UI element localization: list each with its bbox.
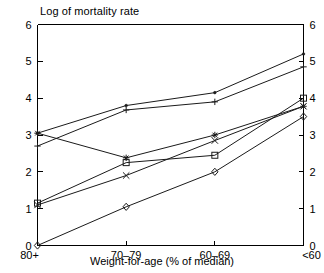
marker-plus bbox=[300, 64, 306, 70]
chart-canvas: 00112233445566 80+70–7960–69<60 bbox=[0, 0, 324, 273]
series-line-3 bbox=[38, 106, 304, 158]
marker-star bbox=[212, 132, 218, 138]
axes-group: 00112233445566 bbox=[25, 19, 315, 252]
series-6-diamond bbox=[34, 113, 306, 249]
series-line-6 bbox=[38, 117, 304, 246]
mortality-chart-figure: Log of mortality rate 00112233445566 80+… bbox=[0, 0, 324, 273]
marker-point bbox=[125, 104, 128, 107]
series-group bbox=[34, 53, 306, 249]
series-1-point bbox=[36, 53, 305, 135]
y-tick-label-left-6: 6 bbox=[25, 19, 31, 31]
marker-point bbox=[302, 53, 305, 56]
y-tick-label-left-3: 3 bbox=[25, 129, 31, 141]
marker-plus bbox=[34, 143, 40, 149]
marker-plus bbox=[212, 99, 218, 105]
series-3-star bbox=[34, 103, 306, 161]
y-tick-label-right-2: 2 bbox=[310, 166, 316, 178]
y-tick-label-right-3: 3 bbox=[310, 129, 316, 141]
marker-cross bbox=[212, 137, 218, 143]
y-tick-label-right-5: 5 bbox=[310, 55, 316, 67]
y-tick-label-right-4: 4 bbox=[310, 92, 316, 104]
y-tick-label-right-6: 6 bbox=[310, 19, 316, 31]
marker-point bbox=[214, 91, 217, 94]
y-tick-label-left-5: 5 bbox=[25, 55, 31, 67]
x-axis-title: Weight-for-age (% of median) bbox=[0, 255, 324, 267]
y-tick-label-left-1: 1 bbox=[25, 203, 31, 215]
series-line-2 bbox=[38, 67, 304, 146]
marker-star bbox=[34, 130, 40, 136]
marker-cross bbox=[123, 172, 129, 178]
series-2-plus bbox=[34, 64, 306, 150]
series-line-5 bbox=[38, 98, 304, 203]
y-tick-label-left-4: 4 bbox=[25, 92, 31, 104]
y-tick-label-left-2: 2 bbox=[25, 166, 31, 178]
marker-plus bbox=[123, 107, 129, 113]
y-tick-label-right-1: 1 bbox=[310, 203, 316, 215]
